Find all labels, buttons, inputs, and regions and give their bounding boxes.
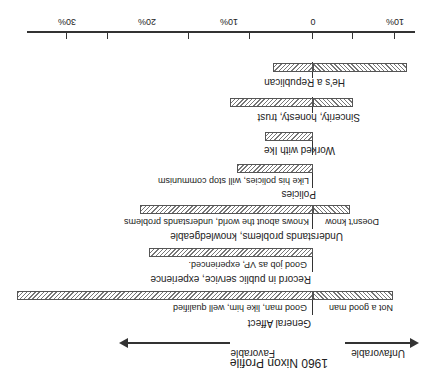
bar-sincerity-unfavorable: [313, 98, 353, 107]
zero-connector: [312, 257, 313, 272]
bar-sincerity-favorable: [230, 98, 313, 107]
bar-understands-favorable: [140, 205, 313, 214]
favorable-label: Favorable: [231, 348, 275, 359]
bar-record-favorable: [149, 248, 313, 257]
zero-connector: [312, 214, 313, 229]
unfavorable-sublabel: Doesn't know: [325, 217, 379, 227]
bar-general-affect-favorable: [17, 291, 313, 300]
x-tick: [188, 33, 189, 39]
chart-canvas: 1960 Nixon Profile Unfavorable Favorable…: [0, 0, 423, 391]
zero-connector: [312, 141, 313, 155]
bar-understands-unfavorable: [313, 205, 350, 214]
x-tick-label: 0: [310, 17, 315, 27]
bar-republican-favorable: [273, 63, 313, 72]
favorable-sublabel: Good man, like him, well qualified: [173, 303, 307, 313]
favorable-sublabel: Like his policies, will stop communism: [158, 176, 309, 186]
x-axis: [27, 31, 415, 33]
zero-connector: [312, 173, 313, 188]
zero-connector: [312, 300, 313, 315]
bar-policies-favorable: [237, 164, 313, 173]
bar-general-affect-unfavorable: [313, 291, 393, 300]
unfavorable-label: Unfavorable: [351, 348, 405, 359]
favorable-sublabel: Good job as VP, experienced.: [189, 260, 307, 270]
x-tick-label: 20%: [138, 17, 156, 27]
x-tick: [352, 33, 353, 39]
x-tick-label: 10%: [386, 17, 404, 27]
favorable-arrow-icon: [127, 342, 230, 344]
category-label: Worked with Ike: [264, 145, 335, 156]
unfavorable-sublabel: Not a good man: [329, 303, 393, 313]
x-tick: [312, 33, 313, 39]
category-label: Policies: [282, 189, 316, 200]
category-label: He's a Republican: [264, 77, 345, 88]
x-tick: [66, 33, 67, 39]
bar-ike-favorable: [265, 132, 313, 141]
unfavorable-arrow-icon: [345, 342, 411, 344]
x-tick: [107, 33, 108, 39]
x-tick-label: 30%: [58, 17, 76, 27]
category-label: Sincerity, honesty, trust: [258, 112, 360, 123]
category-label: Record in public service, experience: [150, 274, 311, 285]
x-tick: [249, 33, 250, 39]
bar-republican-unfavorable: [313, 63, 407, 72]
category-label: General Affect: [248, 318, 311, 329]
category-label: Understands problems, knowledgeable: [170, 231, 343, 242]
x-tick: [394, 33, 395, 39]
x-tick-label: 10%: [220, 17, 238, 27]
favorable-sublabel: Knows about the world, understands probl…: [124, 217, 309, 227]
